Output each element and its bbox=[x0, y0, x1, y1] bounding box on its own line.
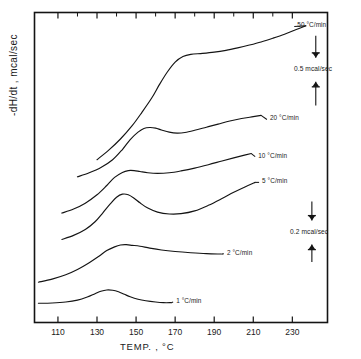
series-label: 2 °C/min bbox=[227, 249, 252, 256]
leader-line bbox=[251, 154, 255, 157]
x-tick-label: 150 bbox=[129, 327, 143, 337]
series-label: 10 °C/min bbox=[258, 152, 287, 159]
x-axis-label: TEMP. , °C bbox=[120, 341, 174, 352]
chart-canvas bbox=[0, 0, 361, 359]
scale-bar-label: 0.2 mcal/sec bbox=[290, 228, 328, 235]
leader-line bbox=[261, 115, 267, 119]
curve-10-c-min bbox=[62, 154, 251, 214]
scale-bar-arrowhead-upper bbox=[312, 53, 319, 58]
dsc-thermogram-figure: -dH/dt , mcal/sec TEMP. , °C 11013015017… bbox=[0, 0, 361, 359]
scale-bar-arrowhead-upper bbox=[308, 216, 315, 221]
y-axis-label: -dH/dt , mcal/sec bbox=[8, 0, 19, 116]
series-label: 5 °C/min bbox=[262, 177, 287, 184]
x-tick-label: 190 bbox=[207, 327, 221, 337]
data-curves bbox=[38, 26, 306, 303]
x-tick-label: 170 bbox=[168, 327, 182, 337]
curve-1-c-min bbox=[38, 290, 171, 303]
axis-ticks bbox=[58, 13, 292, 323]
x-tick-label: 230 bbox=[285, 327, 299, 337]
series-label: 20 °C/min bbox=[270, 114, 299, 121]
x-tick-label: 130 bbox=[90, 327, 104, 337]
x-tick-label: 210 bbox=[246, 327, 260, 337]
plot-frame bbox=[35, 13, 328, 323]
x-tick-label: 110 bbox=[51, 327, 65, 337]
series-label: 50 °C/min bbox=[297, 21, 326, 28]
scale-bar-arrowhead-lower bbox=[308, 245, 315, 250]
curve-2-c-min bbox=[38, 245, 222, 283]
curve-50-c-min bbox=[97, 26, 306, 160]
series-label: 1 °C/min bbox=[176, 297, 201, 304]
curve-20-c-min bbox=[77, 115, 261, 176]
leader-line bbox=[171, 302, 173, 303]
scale-bar-arrowhead-lower bbox=[312, 82, 319, 87]
label-leader-lines bbox=[171, 26, 306, 303]
scale-bar-label: 0.5 mcal/sec bbox=[294, 65, 332, 72]
curve-5-c-min bbox=[62, 182, 255, 239]
